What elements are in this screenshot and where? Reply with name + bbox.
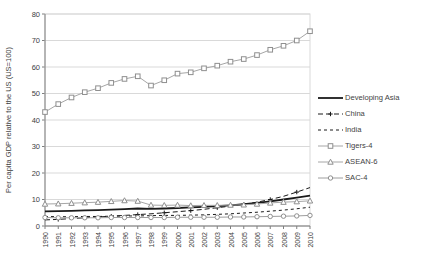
circle-marker <box>149 215 153 219</box>
triangle-marker <box>307 198 312 203</box>
y-tick-label-30: 30 <box>32 142 40 151</box>
square-marker <box>109 81 114 86</box>
legend-label: Developing Asia <box>345 93 399 102</box>
square-marker <box>328 143 333 148</box>
circle-marker <box>109 215 113 219</box>
circle-marker <box>268 214 272 218</box>
circle-marker <box>228 215 232 219</box>
square-marker <box>43 110 48 115</box>
legend-item-developing-asia: Developing Asia <box>317 92 399 103</box>
legend-item-tigers-4: Tigers-4 <box>317 140 399 151</box>
x-tick-label-1997: 1997 <box>135 232 142 248</box>
x-tick-label-1994: 1994 <box>95 232 102 248</box>
x-tick-label-1991: 1991 <box>55 232 62 248</box>
square-marker <box>268 47 273 52</box>
y-tick-label-10: 10 <box>32 195 40 204</box>
square-marker <box>255 53 260 58</box>
legend-line-sample <box>317 125 344 135</box>
legend-line-sample <box>317 173 344 183</box>
legend-label: India <box>345 125 361 134</box>
circle-marker <box>295 214 299 218</box>
triangle-marker <box>228 202 233 207</box>
legend-line-sample <box>317 141 344 151</box>
square-marker <box>308 29 313 34</box>
triangle-marker <box>82 200 87 205</box>
x-tick-label-2005: 2005 <box>241 232 248 248</box>
circle-marker <box>96 216 100 220</box>
circle-marker <box>69 216 73 220</box>
circle-marker <box>162 215 166 219</box>
square-marker <box>215 63 220 68</box>
square-marker <box>56 102 61 107</box>
x-tick-label-2009: 2009 <box>294 232 301 248</box>
square-marker <box>82 90 87 95</box>
circle-marker <box>56 216 60 220</box>
triangle-marker <box>241 202 246 207</box>
legend-line-sample <box>317 157 344 167</box>
square-marker <box>122 77 127 82</box>
x-tick-label-1996: 1996 <box>122 232 129 248</box>
x-tick-label-2008: 2008 <box>281 232 288 248</box>
circle-marker <box>43 215 47 219</box>
square-marker <box>135 74 140 79</box>
triangle-marker <box>122 198 127 203</box>
circle-marker <box>281 214 285 218</box>
square-marker <box>175 71 180 76</box>
x-tick-label-2003: 2003 <box>214 232 221 248</box>
x-tick-label-1995: 1995 <box>108 232 115 248</box>
y-tick-label-60: 60 <box>32 63 40 72</box>
triangle-marker <box>215 203 220 208</box>
x-tick-label-1990: 1990 <box>42 232 49 248</box>
y-tick-label-20: 20 <box>32 169 40 178</box>
legend-item-asean-6: ASEAN-6 <box>317 156 399 167</box>
circle-marker <box>122 215 126 219</box>
triangle-marker <box>188 203 193 208</box>
x-tick-label-2004: 2004 <box>228 232 235 248</box>
x-tick-label-2000: 2000 <box>175 232 182 248</box>
circle-marker <box>175 215 179 219</box>
x-tick-label-2001: 2001 <box>188 232 195 248</box>
triangle-marker <box>201 203 206 208</box>
circle-marker <box>215 215 219 219</box>
triangle-marker <box>162 203 167 208</box>
square-marker <box>228 59 233 64</box>
y-tick-label-0: 0 <box>36 222 40 231</box>
triangle-marker <box>56 201 61 206</box>
legend-label: SAC-4 <box>345 173 367 182</box>
legend-line-sample <box>317 93 344 103</box>
x-tick-label-1999: 1999 <box>161 232 168 248</box>
triangle-marker <box>95 199 100 204</box>
square-marker <box>162 78 167 83</box>
chart-canvas: 0102030405060708019901991199219931994199… <box>0 0 424 270</box>
triangle-marker <box>42 201 47 206</box>
circle-marker <box>136 215 140 219</box>
y-tick-label-50: 50 <box>32 89 40 98</box>
legend-item-china: China <box>317 108 399 119</box>
y-tick-label-80: 80 <box>32 10 40 19</box>
y-tick-label-40: 40 <box>32 116 40 125</box>
legend-line-sample <box>317 109 344 119</box>
circle-marker <box>83 216 87 220</box>
legend-label: China <box>345 109 365 118</box>
x-tick-label-1992: 1992 <box>69 232 76 248</box>
square-marker <box>69 95 74 100</box>
x-tick-label-2002: 2002 <box>201 232 208 248</box>
x-tick-label-2010: 2010 <box>307 232 314 248</box>
square-marker <box>96 86 101 91</box>
square-marker <box>241 57 246 62</box>
legend-label: ASEAN-6 <box>345 157 378 166</box>
x-tick-label-1993: 1993 <box>82 232 89 248</box>
circle-marker <box>189 215 193 219</box>
circle-marker <box>255 215 259 219</box>
x-tick-label-2007: 2007 <box>267 232 274 248</box>
triangle-marker <box>328 159 333 164</box>
triangle-marker <box>148 202 153 207</box>
circle-marker <box>328 175 332 179</box>
y-tick-label-70: 70 <box>32 36 40 45</box>
legend: Developing AsiaChinaIndiaTigers-4ASEAN-6… <box>317 92 399 183</box>
legend-item-india: India <box>317 124 399 135</box>
legend-label: Tigers-4 <box>345 141 373 150</box>
circle-marker <box>242 215 246 219</box>
square-marker <box>294 38 299 43</box>
square-marker <box>281 44 286 49</box>
